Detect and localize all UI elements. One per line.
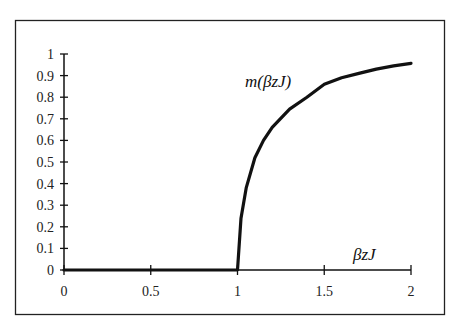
y-tick-label: 0.3	[37, 198, 55, 213]
curve-label: m(βzJ)	[245, 72, 292, 91]
y-tick-label: 0.7	[37, 112, 55, 127]
y-tick-label: 1	[47, 47, 54, 62]
x-tick-label: 1.5	[316, 284, 334, 299]
x-tick-label: 0	[61, 284, 68, 299]
y-tick-label: 0.9	[37, 69, 55, 84]
y-tick-label: 0.8	[37, 90, 55, 105]
chart-figure: 00.10.20.30.40.50.60.70.80.91 00.511.52 …	[0, 0, 458, 330]
x-tick-label: 0.5	[142, 284, 160, 299]
y-tick-label: 0.6	[37, 133, 55, 148]
x-tick-label: 2	[408, 284, 415, 299]
y-tick-label: 0.2	[37, 220, 55, 235]
y-tick-label: 0.5	[37, 155, 55, 170]
x-axis-label: βzJ	[352, 245, 377, 264]
x-tick-label: 1	[234, 284, 241, 299]
y-tick-label: 0.1	[37, 241, 55, 256]
magnetization-curve	[64, 63, 411, 270]
y-tick-label: 0.4	[37, 177, 55, 192]
y-tick-label: 0	[47, 263, 54, 278]
